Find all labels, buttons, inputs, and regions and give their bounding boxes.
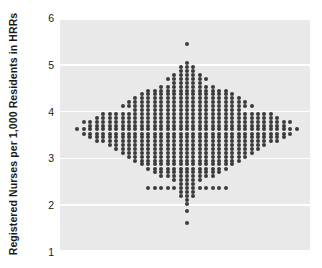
data-point bbox=[133, 159, 137, 163]
gridline-1 bbox=[60, 250, 310, 252]
data-point bbox=[185, 202, 189, 206]
data-point bbox=[211, 186, 215, 190]
data-point bbox=[243, 104, 247, 108]
data-point bbox=[88, 135, 92, 139]
y-axis-tick-labels: 654321 bbox=[26, 0, 60, 268]
data-point bbox=[172, 178, 176, 182]
y-axis-tick-2: 2 bbox=[48, 199, 54, 211]
data-point bbox=[82, 132, 86, 136]
y-axis-tick-3: 3 bbox=[48, 152, 54, 164]
data-point bbox=[166, 174, 170, 178]
data-point bbox=[237, 159, 241, 163]
data-point bbox=[75, 127, 79, 131]
data-point bbox=[185, 221, 189, 225]
data-point bbox=[166, 186, 170, 190]
data-point bbox=[140, 162, 144, 166]
data-point bbox=[159, 174, 163, 178]
data-point bbox=[224, 186, 228, 190]
data-point bbox=[179, 194, 183, 198]
data-point bbox=[108, 143, 112, 147]
y-axis-title: Registered Nurses per 1,000 Residents in… bbox=[7, 13, 19, 256]
data-point bbox=[198, 186, 202, 190]
data-point bbox=[185, 209, 189, 213]
data-point bbox=[159, 186, 163, 190]
data-point bbox=[127, 155, 131, 159]
data-point bbox=[114, 147, 118, 151]
data-point bbox=[95, 139, 99, 143]
data-point bbox=[282, 135, 286, 139]
data-point bbox=[101, 139, 105, 143]
data-point bbox=[204, 77, 208, 81]
data-point bbox=[121, 151, 125, 155]
data-point bbox=[166, 77, 170, 81]
data-point bbox=[82, 120, 86, 124]
y-axis-tick-5: 5 bbox=[48, 59, 54, 71]
gridline-6 bbox=[60, 18, 310, 20]
data-point bbox=[204, 186, 208, 190]
y-axis-title-container: Registered Nurses per 1,000 Residents in… bbox=[0, 0, 26, 268]
data-point bbox=[295, 127, 299, 131]
data-point bbox=[250, 151, 254, 155]
data-point bbox=[230, 162, 234, 166]
data-point bbox=[275, 139, 279, 143]
y-axis-tick-1: 1 bbox=[48, 246, 54, 258]
data-point bbox=[224, 167, 228, 171]
y-axis-tick-4: 4 bbox=[48, 106, 54, 118]
data-point bbox=[121, 104, 125, 108]
y-axis-tick-6: 6 bbox=[48, 12, 54, 24]
data-point bbox=[262, 143, 266, 147]
data-point bbox=[127, 104, 131, 108]
data-point bbox=[243, 155, 247, 159]
data-point bbox=[185, 42, 189, 46]
data-point bbox=[217, 170, 221, 174]
data-point bbox=[217, 186, 221, 190]
data-point bbox=[146, 167, 150, 171]
data-point bbox=[146, 186, 150, 190]
data-point bbox=[191, 194, 195, 198]
data-point bbox=[204, 174, 208, 178]
data-point bbox=[288, 132, 292, 136]
data-point bbox=[250, 104, 254, 108]
data-point bbox=[211, 174, 215, 178]
data-point bbox=[269, 139, 273, 143]
data-point bbox=[153, 186, 157, 190]
data-point bbox=[153, 170, 157, 174]
data-point bbox=[198, 178, 202, 182]
dot-histogram-figure: Registered Nurses per 1,000 Residents in… bbox=[0, 0, 322, 268]
plot-area bbox=[60, 18, 310, 252]
data-point bbox=[172, 186, 176, 190]
data-point bbox=[288, 120, 292, 124]
data-point bbox=[256, 147, 260, 151]
